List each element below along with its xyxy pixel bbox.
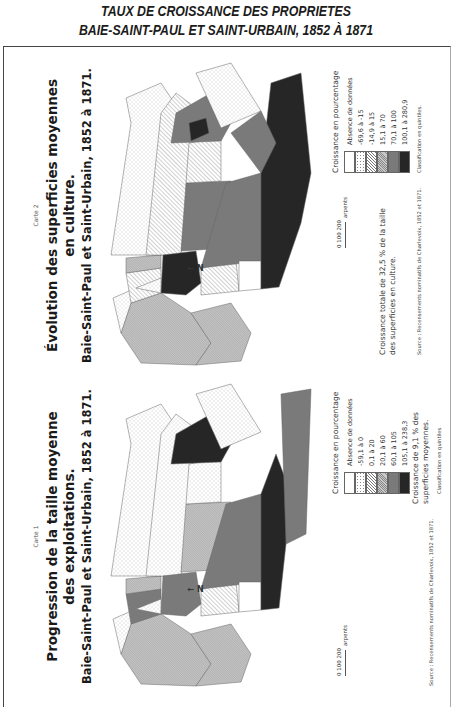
swatch-dots [355, 151, 366, 173]
map-title-line-1: Évolution des superficies moyennes [44, 58, 61, 373]
swatch-none [344, 151, 355, 173]
legend-label: -59,1 à 0 [357, 437, 365, 466]
map-title: Évolution des superficies moyennes en cu… [44, 58, 78, 373]
legend-label: 70,1 à 100 [390, 110, 398, 145]
legend-label: 0,1 à 20 [368, 439, 376, 466]
carte-label: Carte 1 [32, 379, 39, 694]
legend-label: 15,1 à 70 [379, 114, 387, 145]
legend-item: Absence de données [344, 71, 355, 173]
scale-unit: arpents [342, 625, 348, 646]
legend-title: Croissance en pourcentage [331, 71, 340, 173]
legend-label: -69,6 à -15 [357, 109, 365, 145]
legend: Croissance en pourcentage Absence de don… [331, 392, 410, 494]
scale-bar: 0 100 200 arpents [336, 197, 348, 248]
swatch-medium-gray [388, 151, 399, 173]
legend-label: -14,9 à 15 [368, 112, 376, 145]
legend-label: 105,1 à 238,3 [401, 421, 409, 466]
map-title-line-1: Progression de la taille moyenne [44, 379, 61, 694]
legend-item: 105,1 à 238,3 [399, 392, 410, 494]
swatch-none [344, 472, 355, 494]
swatch-dots [355, 472, 366, 494]
north-label: N [197, 264, 204, 273]
growth-note: Croissance totale de 32,5 % de la taille… [378, 205, 398, 355]
legend-label: 100,1 à 280,9 [401, 100, 409, 145]
scale-bar: 0 100 200 arpents [336, 625, 348, 676]
map-title-line-2: des exploitations. [61, 379, 78, 694]
north-label: N [197, 585, 204, 594]
carte-label: Carte 2 [32, 58, 39, 373]
classification-note: Classification en quintiles. [416, 105, 422, 173]
legend-item: -14,9 à 15 [366, 71, 377, 173]
north-arrow-icon: ← N [187, 585, 203, 594]
choropleth-map [101, 58, 331, 373]
map-panel-carte-1: Carte 1 Progression de la taille moyenne… [6, 379, 446, 694]
north-arrow-icon: ← N [187, 264, 203, 273]
map-subtitle: Baie-Saint-Paul et Saint-Urbain, 1852 à … [80, 58, 94, 373]
legend-item: Absence de données [344, 392, 355, 494]
legend-label: 20,1 à 60 [379, 435, 387, 466]
choropleth-map [101, 379, 331, 694]
swatch-hatch [366, 151, 377, 173]
legend-item: -59,1 à 0 [355, 392, 366, 494]
map-title: Progression de la taille moyenne des exp… [44, 379, 78, 694]
legend-label: Absence de données [346, 77, 354, 145]
source-note: Source : Recensements nominatifs de Char… [416, 188, 422, 355]
scale-bar-line [345, 650, 346, 676]
legend-item: 100,1 à 280,9 [399, 71, 410, 173]
document-title-line-2: BAIE-SAINT-PAUL ET SAINT-URBAIN, 1852 À … [41, 21, 412, 38]
legend-item: 70,1 à 100 [388, 71, 399, 173]
swatch-hatch [366, 472, 377, 494]
map-subtitle: Baie-Saint-Paul et Saint-Urbain, 1852 à … [80, 379, 94, 694]
swatch-fine-hatch [377, 472, 388, 494]
swatch-fine-hatch [377, 151, 388, 173]
scale-unit: arpents [342, 197, 348, 218]
legend-label: Absence de données [346, 398, 354, 466]
legend-label: 60,1 à 105 [390, 431, 398, 466]
source-note: Source : Recensements nominatifs de Char… [428, 519, 434, 686]
legend-item: -69,6 à -15 [355, 71, 366, 173]
swatch-dark [399, 472, 410, 494]
legend: Croissance en pourcentage Absence de don… [331, 71, 410, 173]
map-title-line-2: en culture. [61, 58, 78, 373]
scale-bar-line [345, 222, 346, 248]
legend-item: 60,1 à 105 [388, 392, 399, 494]
legend-item: 15,1 à 70 [377, 71, 388, 173]
growth-note: Croissance de 9,1 % des superficies moye… [411, 384, 431, 504]
map-panel-carte-2: Carte 2 Évolution des superficies moyenn… [6, 58, 446, 373]
document-title-line-1: TAUX DE CROISSANCE DES PROPRIETES [41, 2, 412, 19]
swatch-medium-gray [388, 472, 399, 494]
classification-note: Classification en quintiles [436, 428, 442, 494]
legend-title: Croissance en pourcentage [331, 392, 340, 494]
legend-item: 0,1 à 20 [366, 392, 377, 494]
swatch-dark [399, 151, 410, 173]
legend-item: 20,1 à 60 [377, 392, 388, 494]
